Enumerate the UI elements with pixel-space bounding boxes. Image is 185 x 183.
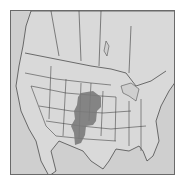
map-frame	[10, 10, 175, 175]
north-america-map	[11, 11, 175, 175]
